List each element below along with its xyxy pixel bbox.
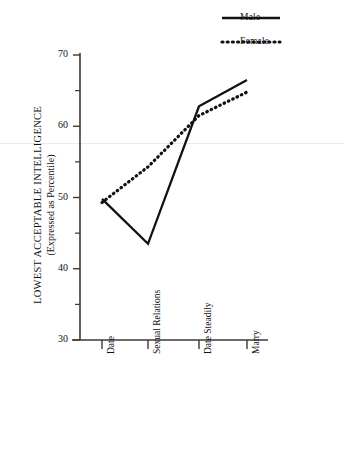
y-tick-label: 60: [42, 119, 68, 130]
y-tick-label: 40: [42, 262, 68, 273]
legend-label-male: Male: [240, 12, 260, 22]
series-line-female: [102, 92, 247, 202]
y-tick-label: 30: [42, 333, 68, 344]
line-chart-plot: [0, 0, 344, 456]
chart-figure: Male Female LOWEST ACCEPTABLE INTELLIGEN…: [0, 0, 344, 456]
x-tick-label: Date: [106, 336, 116, 354]
y-tick-label: 70: [42, 48, 68, 59]
x-tick-label: Marry: [251, 330, 261, 354]
x-tick-label: Date Steadily: [203, 303, 213, 354]
y-tick-label: 50: [42, 191, 68, 202]
series-group: [102, 80, 247, 244]
legend-label-female: Female: [240, 36, 269, 46]
x-tick-label: Sexual Relations: [152, 290, 162, 354]
series-line-male: [102, 80, 247, 244]
